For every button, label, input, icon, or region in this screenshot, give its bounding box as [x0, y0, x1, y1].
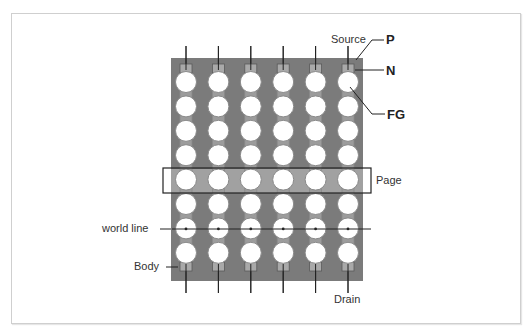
- memory-cell: [208, 242, 229, 263]
- memory-cell: [273, 96, 294, 117]
- memory-cell: [208, 194, 229, 215]
- memory-cell: [176, 72, 197, 93]
- memory-cell: [273, 120, 294, 141]
- memory-cell: [240, 72, 261, 93]
- memory-cell: [305, 194, 326, 215]
- memory-cell: [305, 242, 326, 263]
- memory-cell: [305, 96, 326, 117]
- label-source: Source: [331, 34, 366, 45]
- memory-cell: [305, 120, 326, 141]
- memory-cell: [273, 145, 294, 166]
- label-world-line: world line: [102, 223, 148, 234]
- memory-cell: [208, 96, 229, 117]
- memory-cell: [208, 145, 229, 166]
- label-p: P: [386, 33, 395, 46]
- memory-cell: [208, 72, 229, 93]
- memory-cell: [176, 194, 197, 215]
- label-drain: Drain: [334, 294, 360, 305]
- memory-cell: [240, 145, 261, 166]
- memory-cell: [176, 169, 197, 190]
- memory-cell: [305, 169, 326, 190]
- label-fg: FG: [387, 108, 405, 121]
- memory-cell: [338, 120, 359, 141]
- memory-cell: [240, 169, 261, 190]
- memory-cell: [338, 169, 359, 190]
- memory-cell: [176, 145, 197, 166]
- memory-cell: [305, 145, 326, 166]
- page-band: [171, 169, 363, 193]
- memory-cell: [240, 96, 261, 117]
- memory-cell: [176, 242, 197, 263]
- memory-cell: [240, 120, 261, 141]
- cell-array-diagram: [0, 0, 531, 333]
- memory-cell: [305, 72, 326, 93]
- memory-cell: [273, 242, 294, 263]
- memory-cell: [240, 194, 261, 215]
- memory-cell: [273, 194, 294, 215]
- memory-cell: [273, 72, 294, 93]
- memory-cell: [338, 96, 359, 117]
- memory-cell: [338, 145, 359, 166]
- memory-cell: [208, 169, 229, 190]
- memory-cell: [273, 169, 294, 190]
- memory-cell: [240, 242, 261, 263]
- label-body: Body: [134, 261, 159, 272]
- memory-cell: [176, 96, 197, 117]
- memory-cell: [176, 120, 197, 141]
- memory-cell: [338, 242, 359, 263]
- memory-cell: [208, 120, 229, 141]
- label-n: N: [386, 64, 395, 77]
- memory-cell: [338, 72, 359, 93]
- label-page: Page: [376, 175, 402, 186]
- memory-cell: [338, 194, 359, 215]
